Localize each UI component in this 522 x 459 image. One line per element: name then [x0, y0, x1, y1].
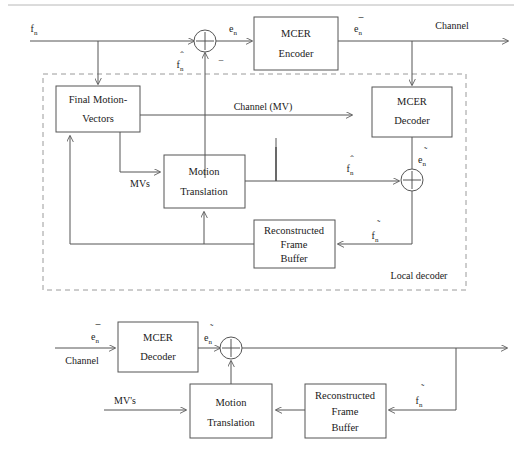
svg-text:̅: ̅ [358, 17, 364, 18]
svg-text:fn: fn [416, 395, 423, 409]
mcer-encoder-label-line2: Encoder [279, 48, 314, 59]
label-channel-in: Channel [65, 355, 99, 366]
rfb-bottom-label-line2: Frame [332, 406, 359, 417]
svg-text:̂: ̂ [180, 51, 184, 53]
signal-error: en [229, 23, 237, 37]
signal-reconstructed-frame-encoder: ̃ fn [372, 220, 381, 244]
mcer-decoder-top-label-line2: Decoder [394, 115, 430, 126]
rfb-top-label-line2: Frame [281, 239, 308, 250]
svg-text:̃: ̃ [424, 147, 428, 149]
rfb-top-label-line1: Reconstructed [264, 225, 325, 236]
svg-text:fn: fn [372, 230, 379, 244]
svg-text:en: en [229, 23, 237, 37]
codec-block-diagram: MCER Encoder fn en ̅ en Channel ̂ fn − F… [0, 0, 522, 459]
motion-translation-bottom-block [190, 384, 272, 438]
label-channel-mv: Channel (MV) [234, 101, 293, 113]
signal-predicted-frame-sum2: ̂ fn [347, 155, 354, 177]
mcer-encoder-label-line1: MCER [281, 28, 311, 39]
svg-text:en: en [204, 332, 212, 346]
signal-input-frame: fn [31, 23, 38, 37]
mvs-line [120, 132, 160, 172]
final-motion-vectors-block [56, 86, 140, 132]
svg-text:fn: fn [347, 163, 354, 177]
svg-text:̃: ̃ [377, 220, 381, 222]
decoder-feedback-line [389, 348, 456, 410]
svg-text:̃: ̃ [421, 384, 425, 386]
signal-decoded-error-decoder: ̃ en [204, 324, 214, 346]
rfb-bottom-label-line1: Reconstructed [315, 390, 376, 401]
final-motion-vectors-label-line2: Vectors [82, 113, 114, 124]
mcer-decoder-bottom-label-line1: MCER [143, 332, 173, 343]
mcer-decoder-top-label-line1: MCER [397, 96, 427, 107]
svg-text:en: en [91, 331, 99, 345]
local-decoder-region-label: Local decoder [391, 270, 449, 281]
signal-coded-error-decoder: ̅ en [91, 324, 101, 345]
label-mvs: MVs [130, 178, 150, 189]
mcer-encoder-block [254, 17, 338, 70]
motion-translation-bottom-label-line1: Motion [216, 397, 248, 408]
rfb-bottom-label-line3: Buffer [331, 422, 359, 433]
signal-decoded-error-encoder: ̃ en [418, 147, 428, 168]
svg-text:̅: ̅ [95, 324, 101, 325]
motion-translation-bottom-label-line2: Translation [207, 417, 255, 428]
svg-text:̂: ̂ [350, 155, 354, 157]
minus-sign-label: − [218, 55, 224, 66]
label-mvs-bottom: MV's [114, 395, 136, 406]
motion-translation-top-label-line2: Translation [180, 186, 228, 197]
mcer-decoder-bottom-block [118, 322, 198, 372]
mcer-decoder-top-block [372, 87, 452, 137]
svg-text:̃: ̃ [210, 324, 214, 326]
svg-text:fn: fn [31, 23, 38, 37]
final-motion-vectors-label-line1: Final Motion- [69, 94, 128, 105]
rfb-top-label-line3: Buffer [280, 253, 308, 264]
signal-coded-error: ̅ en [354, 17, 364, 37]
signal-reconstructed-frame-decoder: ̃ fn [416, 384, 425, 409]
mcer-decoder-bottom-label-line2: Decoder [140, 351, 176, 362]
motion-translation-top-label-line1: Motion [189, 166, 221, 177]
prediction-path-to-sum2 [245, 147, 399, 181]
label-channel-out: Channel [435, 20, 469, 31]
svg-text:en: en [418, 154, 426, 168]
svg-text:fn: fn [177, 59, 184, 73]
signal-predicted-frame-encoder: ̂ fn [177, 51, 184, 73]
svg-text:en: en [354, 23, 362, 37]
